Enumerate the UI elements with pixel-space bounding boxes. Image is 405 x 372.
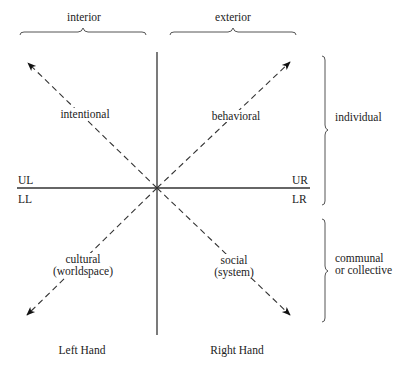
quadrant-lr-label-line1: social: [208, 254, 260, 266]
quadrant-ul-label: intentional: [50, 108, 120, 120]
label-right-hand: Right Hand: [202, 344, 272, 356]
code-ul: UL: [18, 174, 33, 186]
label-interior: interior: [50, 11, 118, 23]
label-left-hand: Left Hand: [50, 344, 114, 356]
quadrant-ur-label: behavioral: [200, 110, 272, 122]
brace-individual: [322, 56, 328, 205]
label-communal-line1: communal: [335, 252, 392, 264]
code-lr: LR: [292, 193, 307, 205]
code-ll: LL: [18, 193, 32, 205]
quadrant-ll-label-line1: cultural: [48, 253, 118, 265]
quadrant-ll-label: cultural (worldspace): [48, 253, 118, 277]
label-individual: individual: [335, 111, 382, 123]
quadrant-lr-label-line2: (system): [208, 266, 260, 278]
label-exterior: exterior: [198, 11, 268, 23]
arrow-lower-left: [27, 188, 157, 315]
code-ur: UR: [292, 174, 308, 186]
label-communal: communal or collective: [335, 252, 392, 276]
arrow-upper-left: [28, 63, 157, 188]
quadrant-diagram: [0, 0, 405, 372]
brace-interior: [20, 28, 146, 35]
quadrant-lr-label: social (system): [208, 254, 260, 278]
brace-exterior: [170, 28, 296, 35]
brace-communal: [322, 219, 328, 322]
arrow-lower-right: [157, 188, 290, 315]
quadrant-ll-label-line2: (worldspace): [48, 265, 118, 277]
label-communal-line2: or collective: [335, 264, 392, 276]
arrow-upper-right: [157, 62, 290, 188]
